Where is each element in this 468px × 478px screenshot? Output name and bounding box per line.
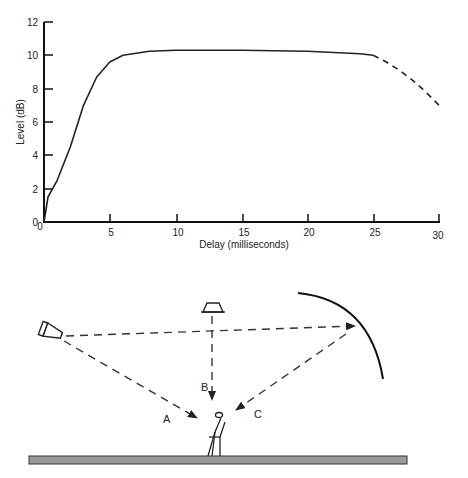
floor [29,456,407,464]
x-tick-label: 20 [303,227,315,238]
label-c: C [254,408,262,420]
x-axis-title: Delay (milliseconds) [199,239,288,250]
y-tick-label: 8 [32,84,38,95]
y-tick-label: 12 [27,17,39,28]
y-tick-label: 2 [32,184,38,195]
label-b: B [201,381,208,393]
y-tick-label: 10 [27,50,39,61]
solid-curve [44,50,373,222]
ray-speaker-to-reflector [66,326,355,336]
x-tick-label: 10 [172,227,184,238]
overhead-loudspeaker-icon [201,303,225,312]
x-tick-label: 0 [37,221,43,232]
x-tick-label: 15 [238,227,250,238]
x-tick-label: 30 [432,230,444,241]
x-tick-label: 25 [369,227,381,238]
figure: 0 2 4 6 8 10 12 Level (dB) 0 5 10 15 20 … [0,0,468,478]
ray-a [64,341,197,418]
ray-c [236,334,346,410]
y-tick-label: 6 [32,117,38,128]
y-tick-labels: 0 2 4 6 8 10 12 [27,17,39,228]
listener-icon [208,413,225,457]
y-tick-label: 4 [32,150,38,161]
x-tick-labels: 0 5 10 15 20 25 30 [37,221,444,241]
label-a: A [163,413,171,425]
side-loudspeaker-icon [38,321,63,342]
y-ticks [44,22,53,189]
dashed-curve [373,55,439,105]
chart: 0 2 4 6 8 10 12 Level (dB) 0 5 10 15 20 … [15,17,444,250]
diagram: A B C [29,293,407,464]
y-axis-title: Level (dB) [15,99,26,145]
x-ticks [110,214,439,222]
curved-reflector [298,293,383,379]
x-tick-label: 5 [108,227,114,238]
